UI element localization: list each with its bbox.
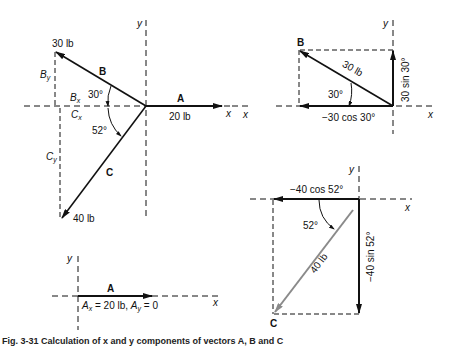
components-text: Ax = 20 lb, Ay = 0	[81, 300, 158, 313]
x-axis-label-left: x	[242, 109, 249, 120]
vector-a-label: A	[177, 93, 184, 104]
y-axis-label: y	[66, 253, 73, 264]
bx-label: Bx	[70, 92, 81, 104]
y-axis-label: y	[348, 164, 355, 175]
vector-b-label: B	[297, 37, 304, 48]
panel-b: y x x B 30 lb 30° −30 cos 30° 30 sin 30°	[232, 18, 436, 134]
angle-arc-30	[349, 83, 352, 106]
cx-label: Cx	[71, 109, 82, 121]
x-axis-label: x	[225, 108, 232, 119]
panel-c: y x −40 cos 52° −40 sin 52° 52° 40 lb C	[250, 164, 412, 329]
vector-c-arrow	[62, 106, 146, 218]
panel-main: y x A 20 lb B 30 lb C 40 lb 30° 52° By B…	[24, 18, 232, 224]
by-label: By	[40, 69, 51, 82]
x-component-label: −30 cos 30°	[322, 112, 375, 123]
x-axis-label: x	[404, 202, 411, 213]
angle-52-label: 52°	[92, 125, 107, 136]
cy-label: Cy	[46, 151, 57, 164]
vector-c-magnitude: 40 lb	[308, 251, 330, 275]
angle-arc-30	[108, 86, 111, 106]
vector-a-magnitude: 20 lb	[169, 111, 191, 122]
angle-30-label: 30°	[328, 89, 343, 100]
angle-arc-52	[108, 108, 121, 136]
panel-a: y x A Ax = 20 lb, Ay = 0	[52, 253, 222, 330]
y-component-label: −40 sin 52°	[365, 232, 376, 282]
vector-b-magnitude: 30 lb	[52, 38, 74, 49]
angle-52-label: 52°	[303, 220, 318, 231]
x-component-label: −40 cos 52°	[290, 184, 343, 195]
vector-b-magnitude: 30 lb	[341, 58, 366, 79]
vector-b-label: B	[99, 66, 106, 77]
figure-caption: Fig. 3-31 Calculation of x and y compone…	[2, 336, 283, 346]
angle-arc-52	[319, 200, 334, 229]
vector-c-magnitude: 40 lb	[73, 213, 95, 224]
vector-a-label: A	[107, 283, 114, 294]
y-component-label: 30 sin 30°	[400, 57, 411, 102]
angle-30-label: 30°	[88, 89, 103, 100]
vector-c-label: C	[106, 167, 113, 178]
vector-c-label: C	[270, 318, 277, 329]
x-axis-label-right: x	[427, 109, 434, 120]
y-axis-label: y	[382, 18, 389, 29]
y-axis-label: y	[136, 18, 143, 29]
x-axis-label: x	[212, 297, 219, 308]
